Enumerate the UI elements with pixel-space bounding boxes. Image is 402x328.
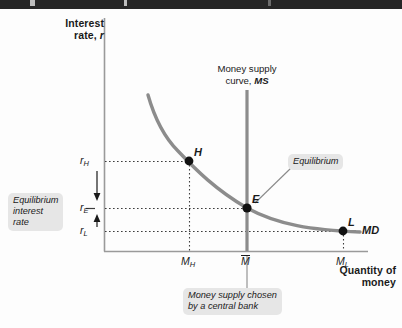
ms-label-line2: curve, <box>225 75 254 86</box>
arrow-rH-to-rE-head <box>94 193 101 201</box>
x-tick-MH-sub: H <box>190 260 195 269</box>
y-axis-title-variable: r <box>100 29 104 41</box>
md-curve-label: MD <box>362 224 379 236</box>
data-point-H <box>185 157 194 166</box>
x-tick-Mbar-base: M <box>241 255 250 267</box>
y-tick-rE-sub: E <box>84 206 89 215</box>
ms-chosen-line1: Money supply chosen <box>188 290 277 300</box>
point-label-H: H <box>194 146 202 158</box>
x-tick-ML-sub: L <box>345 260 349 269</box>
y-axis-title-line1: Interest <box>65 17 104 29</box>
point-label-E: E <box>252 193 259 205</box>
data-point-E <box>242 203 251 212</box>
equilibrium-interest-rate-callout: Equilibrium interest rate <box>8 193 63 231</box>
x-tick-ML-base: M <box>336 255 345 267</box>
eq-rate-line3: rate <box>13 217 29 227</box>
equilibrium-leader-line <box>255 168 291 203</box>
money-supply-chosen-callout: Money supply chosen by a central bank <box>183 288 282 315</box>
ms-chosen-line2: by a central bank <box>188 301 258 311</box>
y-tick-rL: rL <box>80 224 88 238</box>
y-tick-rE: rE <box>80 201 89 215</box>
x-tick-MH: MH <box>181 255 195 269</box>
eq-rate-line1: Equilibrium <box>13 195 58 205</box>
equilibrium-callout: Equilibrium <box>288 154 343 170</box>
eq-rate-line2: interest <box>13 206 43 216</box>
point-label-L: L <box>348 216 355 228</box>
x-tick-Mbar: M <box>241 255 250 267</box>
figure-canvas: Interest rate, r Quantity of money rH rE… <box>0 0 402 328</box>
y-tick-rH-sub: H <box>84 159 89 168</box>
y-axis-title: Interest rate, r <box>52 18 104 41</box>
y-tick-rL-sub: L <box>84 229 88 238</box>
x-tick-MH-base: M <box>181 255 190 267</box>
money-supply-curve-label: Money supply curve, MS <box>198 63 296 86</box>
data-point-L <box>339 227 348 236</box>
ms-label-line1: Money supply <box>217 63 276 74</box>
ms-label-abbrev: MS <box>254 75 268 86</box>
arrow-rL-to-rE-head <box>94 214 101 222</box>
y-tick-rH: rH <box>80 154 89 168</box>
x-axis-title-line2: money <box>362 276 396 288</box>
x-tick-ML: ML <box>336 255 349 269</box>
y-axis-title-line2: rate, <box>74 29 100 41</box>
